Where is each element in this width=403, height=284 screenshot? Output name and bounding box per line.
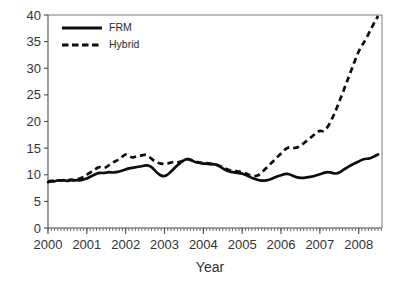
x-axis-title: Year — [196, 259, 225, 275]
legend-label-frm: FRM — [109, 21, 132, 33]
y-tick-label: 20 — [27, 114, 41, 129]
y-tick-label: 5 — [34, 194, 41, 209]
y-tick-label: 35 — [27, 34, 41, 49]
y-tick-label: 25 — [27, 87, 41, 102]
x-tick-label: 2008 — [344, 237, 373, 252]
x-tick-label: 2003 — [150, 237, 179, 252]
x-tick-label: 2002 — [111, 237, 140, 252]
y-tick-label: 10 — [27, 167, 41, 182]
y-tick-label: 15 — [27, 141, 41, 156]
chart-figure: 0510152025303540 20002001200220032004200… — [0, 0, 403, 284]
x-tick-label: 2007 — [305, 237, 334, 252]
x-tick-label: 2001 — [72, 237, 101, 252]
x-tick-label: 2005 — [228, 237, 257, 252]
y-tick-label: 0 — [34, 221, 41, 236]
x-tick-label: 2000 — [34, 237, 63, 252]
y-tick-label: 40 — [27, 8, 41, 23]
x-axis-tick-labels: 200020012002200320042005200620072008 — [34, 237, 374, 252]
legend-label-hybrid: Hybrid — [109, 38, 140, 50]
y-tick-label: 30 — [27, 61, 41, 76]
line-chart: 0510152025303540 20002001200220032004200… — [0, 0, 403, 284]
x-tick-label: 2004 — [189, 237, 218, 252]
x-tick-label: 2006 — [267, 237, 296, 252]
